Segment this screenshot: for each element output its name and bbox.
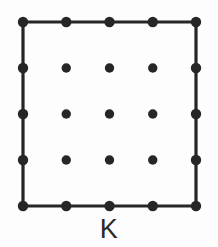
interior-lattice-point-7	[105, 155, 114, 164]
boundary-lattice-point-10	[104, 201, 114, 211]
boundary-lattice-point-0	[18, 17, 28, 27]
interior-lattice-point-4	[105, 109, 114, 118]
boundary-lattice-point-5	[191, 63, 201, 73]
interior-lattice-point-8	[148, 155, 157, 164]
boundary-lattice-point-1	[61, 17, 71, 27]
interior-lattice-point-1	[105, 63, 114, 72]
interior-lattice-point-6	[62, 155, 71, 164]
boundary-lattice-point-15	[18, 63, 28, 73]
boundary-lattice-point-7	[191, 155, 201, 165]
boundary-lattice-point-11	[61, 201, 71, 211]
boundary-lattice-point-4	[191, 17, 201, 27]
figure-canvas: K	[0, 0, 218, 247]
boundary-lattice-point-3	[148, 17, 158, 27]
boundary-lattice-point-6	[191, 109, 201, 119]
boundary-lattice-point-14	[18, 109, 28, 119]
boundary-lattice-point-2	[104, 17, 114, 27]
figure-caption-label: K	[0, 216, 218, 243]
boundary-lattice-point-13	[18, 155, 28, 165]
lattice-diagram	[0, 0, 218, 247]
boundary-lattice-point-9	[148, 201, 158, 211]
interior-lattice-point-5	[148, 109, 157, 118]
interior-lattice-point-3	[62, 109, 71, 118]
boundary-lattice-point-8	[191, 201, 201, 211]
interior-lattice-point-2	[148, 63, 157, 72]
interior-lattice-point-0	[62, 63, 71, 72]
boundary-lattice-point-12	[18, 201, 28, 211]
